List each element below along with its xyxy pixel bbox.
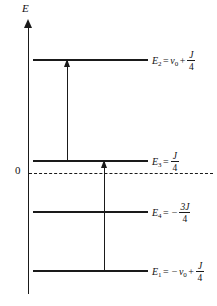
transition-arrow-shaft-e3-e2 xyxy=(67,59,68,160)
fraction-numerator-e2: J xyxy=(188,50,194,60)
zero-reference-dashed-line xyxy=(29,173,213,174)
fraction-numerator-e4: 3J xyxy=(179,202,190,212)
fraction-denominator-e2: 4 xyxy=(188,62,195,72)
transition-arrowhead-icon-e1-e3 xyxy=(101,160,107,168)
energy-level-diagram: E 0 E2 = ν0 + J 4 E3 = J 4 E4 = − xyxy=(0,0,217,306)
zero-tick-label: 0 xyxy=(15,165,21,176)
fraction-e2: J 4 xyxy=(187,50,195,72)
transition-arrow-shaft-e1-e3 xyxy=(104,160,105,270)
fraction-e3: J 4 xyxy=(171,151,179,173)
minus-sign-e1: − xyxy=(172,267,178,277)
energy-level-bar-e2 xyxy=(33,59,148,61)
minus-sign-e4: − xyxy=(172,208,178,218)
plus-sign-e2: + xyxy=(180,56,186,66)
energy-axis-line xyxy=(28,26,29,294)
energy-level-bar-e1 xyxy=(33,270,148,272)
equals-sign-e2: = xyxy=(163,56,169,66)
plus-sign-e1: + xyxy=(188,267,194,277)
equals-sign-e4: = xyxy=(163,208,169,218)
fraction-e4: 3J 4 xyxy=(179,202,190,224)
nu-subscript-e2: 0 xyxy=(175,59,179,69)
fraction-numerator-e3: J xyxy=(172,151,178,161)
fraction-e1: J 4 xyxy=(196,261,204,283)
transition-arrowhead-icon-e3-e2 xyxy=(64,59,70,67)
level-label-e4: E4 = − 3J 4 xyxy=(152,202,191,224)
level-subscript-e2: 2 xyxy=(158,59,162,69)
level-label-e3: E3 = J 4 xyxy=(152,151,179,173)
fraction-denominator-e4: 4 xyxy=(182,214,189,224)
nu-subscript-e1: 0 xyxy=(183,270,187,280)
fraction-denominator-e1: 4 xyxy=(197,273,204,283)
level-subscript-e1: 1 xyxy=(158,270,162,280)
level-label-e1: E1 = − ν0 + J 4 xyxy=(152,261,204,283)
level-subscript-e4: 4 xyxy=(158,211,162,221)
level-label-e2: E2 = ν0 + J 4 xyxy=(152,50,196,72)
energy-axis-label: E xyxy=(22,3,29,14)
fraction-numerator-e1: J xyxy=(197,261,203,271)
energy-level-bar-e4 xyxy=(33,211,148,213)
equals-sign-e3: = xyxy=(163,157,169,167)
equals-sign-e1: = xyxy=(163,267,169,277)
fraction-denominator-e3: 4 xyxy=(171,163,178,173)
level-subscript-e3: 3 xyxy=(158,160,162,170)
energy-level-bar-e3 xyxy=(33,160,148,162)
